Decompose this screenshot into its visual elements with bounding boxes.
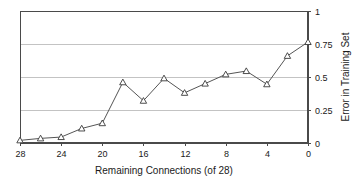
x-tick-label: 0 (306, 149, 311, 159)
x-tick-label: 24 (56, 149, 66, 159)
x-tick-label: 4 (265, 149, 270, 159)
y-tick-label: 1 (315, 7, 320, 17)
y-tick-label: 0 (315, 139, 320, 149)
x-tick-label: 12 (180, 149, 190, 159)
y-axis-title: Error in Training Set (340, 32, 351, 121)
x-tick-label: 28 (15, 149, 25, 159)
x-tick-label: 16 (138, 149, 148, 159)
chart-figure: 2824201612840 00.250.50.751 Remaining Co… (0, 0, 364, 182)
y-axis-tick-labels: 00.250.50.751 (315, 7, 333, 149)
x-tick-label: 20 (97, 149, 107, 159)
line-chart-plot: 2824201612840 00.250.50.751 Remaining Co… (0, 0, 364, 182)
x-axis-title: Remaining Connections (of 28) (95, 165, 233, 176)
x-tick-label: 8 (224, 149, 229, 159)
x-axis-tick-labels: 2824201612840 (15, 149, 311, 159)
y-tick-label: 0.25 (315, 106, 333, 116)
y-tick-label: 0.75 (315, 40, 333, 50)
y-tick-label: 0.5 (315, 73, 328, 83)
